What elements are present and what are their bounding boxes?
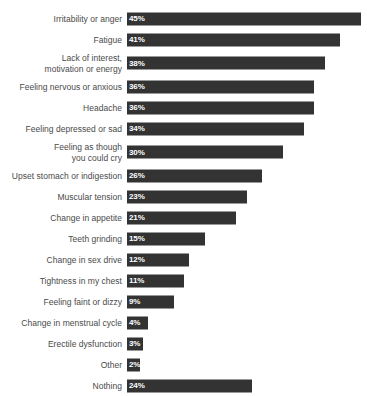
bar-area: 41% (127, 33, 340, 46)
category-label: Change in sex drive (0, 254, 122, 265)
chart-row: Teeth grinding15% (0, 228, 367, 249)
bar: 26% (127, 169, 262, 182)
bar-value-label: 38% (129, 59, 145, 68)
bar: 12% (127, 253, 189, 266)
bar: 9% (127, 295, 174, 308)
bar-area: 4% (127, 316, 148, 329)
bar: 41% (127, 33, 340, 46)
chart-row: Muscular tension23% (0, 186, 367, 207)
bar: 23% (127, 190, 247, 203)
bar: 36% (127, 80, 314, 93)
category-label: Feeling nervous or anxious (0, 81, 122, 92)
chart-row: Irritability or anger45% (0, 8, 367, 29)
chart-row: Other2% (0, 354, 367, 375)
bar-area: 24% (127, 379, 252, 392)
bar-area: 34% (127, 122, 304, 135)
bar-area: 26% (127, 169, 262, 182)
category-label: Nothing (0, 380, 122, 391)
chart-row: Erectile dysfunction3% (0, 333, 367, 354)
bar: 15% (127, 232, 205, 245)
bar: 11% (127, 274, 184, 287)
chart-row: Feeling nervous or anxious36% (0, 76, 367, 97)
category-label: Change in menstrual cycle (0, 317, 122, 328)
category-label: Other (0, 359, 122, 370)
bar-area: 23% (127, 190, 247, 203)
bar-area: 12% (127, 253, 189, 266)
category-label: Fatigue (0, 34, 122, 45)
category-label: Teeth grinding (0, 233, 122, 244)
bar: 30% (127, 146, 283, 159)
bar-area: 21% (127, 211, 236, 224)
category-label: Feeling depressed or sad (0, 123, 122, 134)
bar: 21% (127, 211, 236, 224)
bar-area: 30% (127, 146, 283, 159)
category-label: Lack of interest, motivation or energy (0, 53, 122, 74)
bar: 38% (127, 57, 325, 70)
bar: 24% (127, 379, 252, 392)
bar-area: 9% (127, 295, 174, 308)
category-label: Change in appetite (0, 212, 122, 223)
bar: 2% (127, 358, 140, 371)
bar: 45% (127, 12, 361, 25)
chart-row: Tightness in my chest11% (0, 270, 367, 291)
bar-area: 36% (127, 101, 314, 114)
bar-area: 15% (127, 232, 205, 245)
bar-value-label: 12% (129, 255, 145, 264)
chart-row: Feeling as though you could cry30% (0, 139, 367, 165)
bar-area: 11% (127, 274, 184, 287)
bar-area: 3% (127, 337, 143, 350)
chart-row: Feeling faint or dizzy9% (0, 291, 367, 312)
bar-area: 36% (127, 80, 314, 93)
bar-value-label: 9% (129, 297, 140, 306)
bar-value-label: 41% (129, 35, 145, 44)
category-label: Upset stomach or indigestion (0, 170, 122, 181)
category-label: Tightness in my chest (0, 275, 122, 286)
chart-row: Fatigue41% (0, 29, 367, 50)
bar-value-label: 23% (129, 192, 145, 201)
chart-rows: Irritability or anger45%Fatigue41%Lack o… (0, 8, 367, 396)
chart-row: Change in appetite21% (0, 207, 367, 228)
bar: 3% (127, 337, 143, 350)
bar-value-label: 26% (129, 171, 145, 180)
chart-row: Upset stomach or indigestion26% (0, 165, 367, 186)
chart-row: Feeling depressed or sad34% (0, 118, 367, 139)
bar-value-label: 2% (129, 360, 140, 369)
category-label: Erectile dysfunction (0, 338, 122, 349)
bar-value-label: 34% (129, 124, 145, 133)
bar-value-label: 45% (129, 14, 145, 23)
category-label: Feeling faint or dizzy (0, 296, 122, 307)
category-label: Headache (0, 102, 122, 113)
bar-value-label: 11% (129, 276, 144, 285)
bar-value-label: 4% (129, 318, 140, 327)
bar-value-label: 15% (129, 234, 145, 243)
bar-value-label: 24% (129, 381, 145, 390)
bar-value-label: 3% (129, 339, 140, 348)
bar-area: 45% (127, 12, 361, 25)
bar: 4% (127, 316, 148, 329)
bar-value-label: 36% (129, 103, 145, 112)
bar-area: 38% (127, 57, 325, 70)
chart-row: Nothing24% (0, 375, 367, 396)
bar-value-label: 36% (129, 82, 145, 91)
bar-value-label: 21% (129, 213, 145, 222)
bar-area: 2% (127, 358, 140, 371)
category-label: Muscular tension (0, 191, 122, 202)
bar: 34% (127, 122, 304, 135)
bar: 36% (127, 101, 314, 114)
category-label: Feeling as though you could cry (0, 142, 122, 163)
bar-value-label: 30% (129, 148, 145, 157)
chart-row: Change in sex drive12% (0, 249, 367, 270)
chart-row: Change in menstrual cycle4% (0, 312, 367, 333)
chart-row: Lack of interest, motivation or energy38… (0, 50, 367, 76)
category-label: Irritability or anger (0, 13, 122, 24)
chart-row: Headache36% (0, 97, 367, 118)
